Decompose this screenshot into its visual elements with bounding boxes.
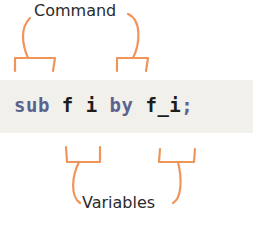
variable-f: f xyxy=(62,94,74,116)
variable-f_i: f_i xyxy=(145,94,181,116)
command-label: Command xyxy=(34,1,116,20)
space xyxy=(98,94,110,116)
variables-bracket-fi xyxy=(66,147,100,162)
variables-bracket-f_i xyxy=(159,149,195,162)
space xyxy=(74,94,86,116)
command-connector-left xyxy=(23,18,30,58)
variable-i: i xyxy=(86,94,98,116)
code-block: sub f i by f_i; xyxy=(0,80,253,133)
command-bracket-by xyxy=(117,58,148,71)
keyword-sub: sub xyxy=(14,94,50,116)
command-connector-right xyxy=(128,14,138,58)
keyword-by: by xyxy=(110,94,134,116)
variables-connector-right xyxy=(173,162,181,203)
space xyxy=(50,94,62,116)
space xyxy=(133,94,145,116)
variables-label: Variables xyxy=(82,193,155,212)
code-line: sub f i by f_i; xyxy=(14,94,193,116)
variables-connector-left xyxy=(73,162,80,203)
command-bracket-sub xyxy=(15,58,55,71)
semicolon: ; xyxy=(181,94,193,116)
